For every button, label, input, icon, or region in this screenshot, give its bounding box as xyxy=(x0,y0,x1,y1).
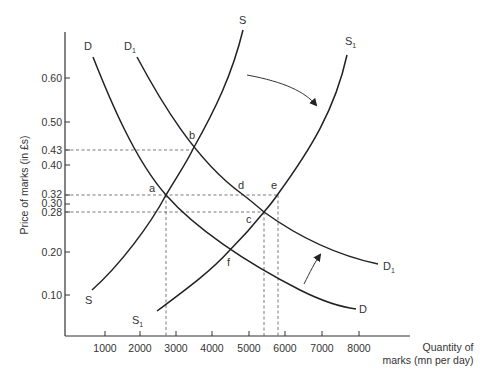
x-tick-label: 7000 xyxy=(310,342,334,354)
y-tick-label: 0.50 xyxy=(42,116,63,128)
label-S1-bottom: S1 xyxy=(132,314,143,328)
label-D1-right: D1 xyxy=(383,260,395,274)
y-tick-label: 0.28 xyxy=(42,206,63,218)
curve-D1 xyxy=(137,57,378,264)
x-tick-label: 1000 xyxy=(93,342,117,354)
label-D-top: D xyxy=(84,40,92,52)
x-tick-label: 4000 xyxy=(200,342,224,354)
label-S1-top: S1 xyxy=(345,35,356,49)
y-tick-label: 0.43 xyxy=(42,144,63,156)
point-c: c xyxy=(246,213,252,225)
y-tick-label: 0.20 xyxy=(42,246,63,258)
x-tick-label: 6000 xyxy=(273,342,297,354)
y-tick-label: 0.40 xyxy=(42,159,63,171)
curve-D xyxy=(93,57,356,309)
point-f: f xyxy=(227,256,231,268)
x-tick-label: 3000 xyxy=(164,342,188,354)
y-tick-label: 0.10 xyxy=(42,289,63,301)
y-axis-title: Price of marks (in £s) xyxy=(18,135,30,234)
curve-S1 xyxy=(157,55,347,311)
x-axis-title-line1: Quantity of xyxy=(423,341,474,353)
y-tick-label: 0.60 xyxy=(42,72,63,84)
point-a: a xyxy=(149,182,156,194)
label-D-right: D xyxy=(359,303,367,315)
label-S-bottom: S xyxy=(85,294,92,306)
demand-shift-arrow xyxy=(304,255,320,284)
y-tick-labels: 0.60 0.50 0.43 0.40 0.32 0.30 0.28 0.20 … xyxy=(42,72,63,301)
point-d: d xyxy=(238,179,244,191)
x-ticks xyxy=(105,331,359,336)
x-tick-label: 8000 xyxy=(347,342,371,354)
point-e: e xyxy=(271,179,277,191)
curves xyxy=(92,30,378,311)
curve-S xyxy=(92,30,243,290)
x-tick-label: 5000 xyxy=(237,342,261,354)
chart: 0.60 0.50 0.43 0.40 0.32 0.30 0.28 0.20 … xyxy=(0,0,489,380)
point-b: b xyxy=(189,129,195,141)
shift-arrows xyxy=(247,75,320,284)
y-ticks xyxy=(65,78,70,295)
label-S-top: S xyxy=(239,14,246,26)
label-D1-top: D1 xyxy=(124,40,136,54)
x-tick-label: 2000 xyxy=(128,342,152,354)
reference-lines xyxy=(65,150,278,336)
supply-shift-arrow xyxy=(247,75,316,105)
curve-labels: D D1 S S1 S S1 D D1 xyxy=(84,14,395,328)
x-axis-title-line2: marks (mn per day) xyxy=(382,354,473,366)
x-tick-labels: 1000 2000 3000 4000 5000 6000 7000 8000 xyxy=(93,342,371,354)
